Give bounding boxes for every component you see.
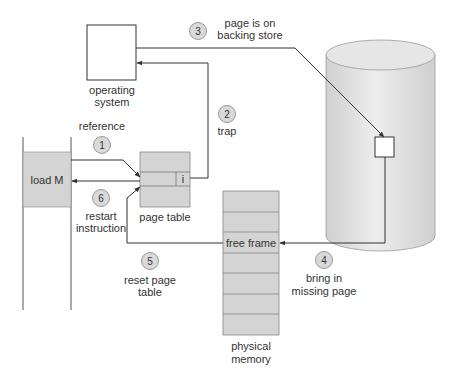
program-strip: load M — [23, 137, 71, 310]
physical-memory: free frame physical memory — [223, 191, 279, 365]
page-table: i page table — [139, 152, 190, 223]
step-1: reference 1 — [79, 120, 125, 154]
step-5: 5 reset page table — [124, 253, 176, 299]
step-2-number: 2 — [224, 109, 230, 120]
step-6-number: 6 — [98, 193, 104, 204]
step-1-label: reference — [79, 120, 125, 132]
step-5-label-1: reset page — [124, 274, 176, 286]
step-2-label: trap — [218, 125, 237, 137]
step-6: 6 restart instruction — [76, 190, 126, 235]
page-on-disk — [375, 137, 394, 157]
page-fault-diagram: operating system load M i page table fre… — [0, 0, 457, 383]
step-4-label-2: missing page — [292, 285, 357, 297]
physical-memory-label-1: physical — [231, 340, 271, 352]
reference-arrow — [71, 160, 140, 177]
step-4: 4 bring in missing page — [292, 252, 357, 298]
step-3-number: 3 — [195, 26, 201, 37]
step-3: 3 page is on backing store — [190, 17, 283, 41]
step-3-label-1: page is on — [225, 17, 276, 29]
step-5-number: 5 — [147, 256, 153, 267]
step-4-number: 4 — [321, 255, 327, 266]
invalid-bit: i — [182, 173, 184, 185]
os-label-1: operating — [89, 84, 135, 96]
load-m-instruction: load M — [30, 174, 63, 186]
physical-memory-label-2: memory — [231, 353, 271, 365]
step-3-label-2: backing store — [217, 29, 282, 41]
backing-store-cylinder — [326, 40, 435, 251]
step-5-label-2: table — [138, 286, 162, 298]
operating-system: operating system — [87, 25, 136, 108]
step-4-label-1: bring in — [306, 272, 342, 284]
free-frame-label: free frame — [226, 237, 276, 249]
step-6-label-2: instruction — [76, 222, 126, 234]
step-1-number: 1 — [99, 140, 105, 151]
os-label-2: system — [95, 96, 130, 108]
page-table-label: page table — [139, 211, 190, 223]
step-2: 2 trap — [218, 106, 237, 138]
step-6-label-1: restart — [85, 210, 116, 222]
